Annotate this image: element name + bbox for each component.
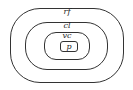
label-cl: cl [57,22,77,30]
label-p: p [59,43,79,51]
label-rf: rf [57,8,77,16]
label-vc: vc [57,32,77,40]
